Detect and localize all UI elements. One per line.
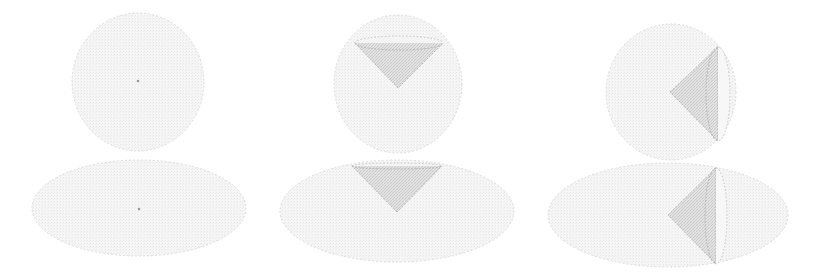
sphere-center-dot [137,80,140,83]
ellipsoid-center-dot [138,208,141,211]
diagram-canvas [0,0,826,279]
shapes-group [32,13,788,267]
